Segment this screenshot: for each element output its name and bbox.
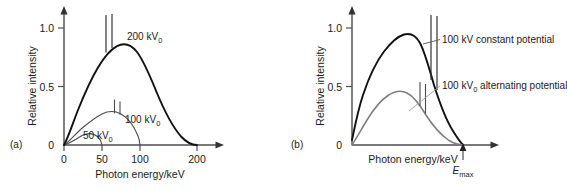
y-tick-label-a-1p0: 1.0 xyxy=(39,22,54,34)
panel-b: 1.0 0.5 0 Photon energy/keV Relative int… xyxy=(283,0,567,190)
y-axis-title-a: Relative intensity xyxy=(26,46,38,126)
x-axis-title-a: Photon energy/keV xyxy=(95,168,184,180)
xray-spectra-figure: 1.0 0.5 0 0 50 100 200 Photon energy/keV… xyxy=(0,0,567,190)
x-axis-a xyxy=(64,141,224,148)
x-tick-label-a-0: 0 xyxy=(61,153,67,165)
y-axis-a xyxy=(60,6,67,145)
panel-b-plot: 1.0 0.5 0 Photon energy/keV Relative int… xyxy=(283,0,567,190)
x-tick-label-a-50: 50 xyxy=(96,153,108,165)
panel-label-a: (a) xyxy=(10,139,22,150)
x-ticks-a xyxy=(64,145,197,151)
y-tick-label-b-0: 0 xyxy=(336,139,342,151)
x-tick-label-a-100: 100 xyxy=(131,153,149,165)
y-ticks-b xyxy=(346,28,352,87)
y-tick-label-a-0: 0 xyxy=(48,139,54,151)
curve-label-200kv: 200 kV0 xyxy=(127,31,162,45)
panel-a-plot: 1.0 0.5 0 0 50 100 200 Photon energy/keV… xyxy=(0,0,283,190)
y-axis-title-b: Relative intensity xyxy=(314,46,326,126)
y-ticks-a xyxy=(58,28,64,87)
y-tick-label-a-0p5: 0.5 xyxy=(39,81,54,93)
x-axis-b xyxy=(352,141,499,148)
curve-label-100kv: 100 kV0 xyxy=(125,114,160,128)
panel-a: 1.0 0.5 0 0 50 100 200 Photon energy/keV… xyxy=(0,0,283,190)
curve-label-alternating-potential: 100 kV0 alternating potential xyxy=(442,80,567,94)
x-axis-title-b: Photon energy/keV xyxy=(368,153,457,165)
x-tick-label-a-200: 200 xyxy=(188,153,206,165)
curve-label-50kv: 50 kV0 xyxy=(83,130,113,144)
panel-label-b: (b) xyxy=(291,139,303,150)
curve-label-constant-potential: 100 kV constant potential xyxy=(442,34,554,45)
emax-label: Emax xyxy=(453,165,474,179)
y-tick-label-b-0p5: 0.5 xyxy=(327,81,342,93)
y-tick-label-b-1p0: 1.0 xyxy=(327,22,342,34)
